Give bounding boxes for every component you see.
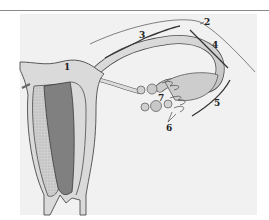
label-6: 6 bbox=[166, 123, 172, 133]
fallopian-tube bbox=[95, 40, 220, 101]
label-7: 7 bbox=[158, 93, 164, 103]
label-3: 3 bbox=[139, 30, 145, 40]
label-2: 2 bbox=[204, 17, 210, 27]
uterus bbox=[20, 60, 104, 215]
leader-lines bbox=[90, 20, 255, 122]
label-1: 1 bbox=[64, 62, 70, 72]
label-4: 4 bbox=[212, 40, 218, 50]
uterus-tube-illustration: 1 2 3 4 5 6 7 bbox=[0, 0, 269, 220]
label-5: 5 bbox=[214, 98, 220, 108]
